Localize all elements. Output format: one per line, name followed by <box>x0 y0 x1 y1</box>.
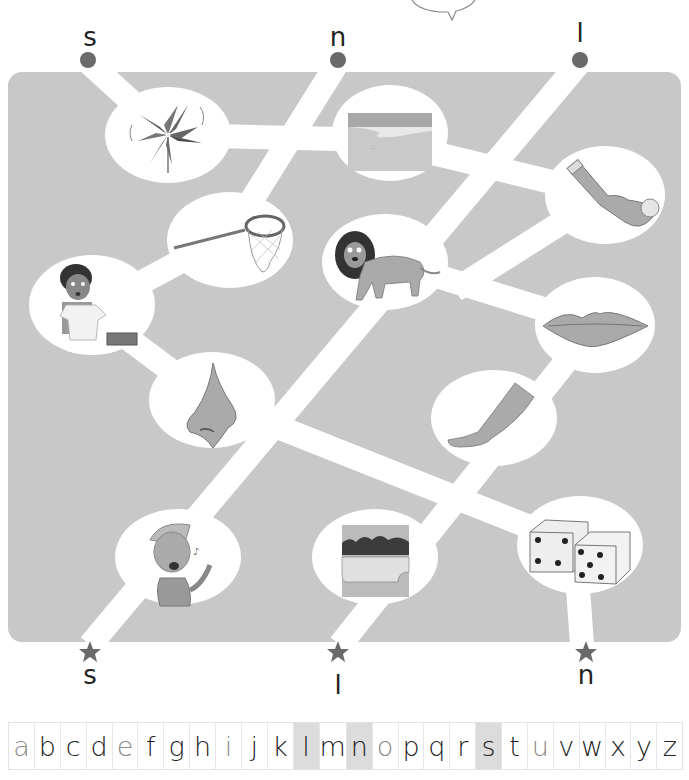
start-letter-n: n <box>330 24 346 50</box>
alphabet-letter-j: j <box>242 723 268 769</box>
alphabet-letter-y: y <box>631 723 657 769</box>
start-dot-l <box>572 52 588 68</box>
alphabet-letter-u: u <box>528 723 554 769</box>
end-letter-s: s <box>83 662 97 688</box>
alphabet-letter-a: a <box>9 723 35 769</box>
alphabet-letter-m: m <box>320 723 347 769</box>
svg-text:♪: ♪ <box>193 546 199 557</box>
start-letter-l: l <box>576 20 583 46</box>
speech-bubble-icon <box>412 0 475 20</box>
alphabet-letter-k: k <box>268 723 294 769</box>
sand-icon <box>348 113 432 171</box>
alphabet-letter-p: p <box>399 723 425 769</box>
alphabet-letter-r: r <box>450 723 476 769</box>
start-letter-s: s <box>83 24 97 50</box>
alphabet-letter-n: n <box>347 723 373 769</box>
alphabet-letter-g: g <box>164 723 190 769</box>
alphabet-letter-t: t <box>502 723 528 769</box>
alphabet-letter-w: w <box>580 723 606 769</box>
alphabet-letter-d: d <box>87 723 113 769</box>
start-dot-s <box>80 52 96 68</box>
alphabet-letter-b: b <box>35 723 61 769</box>
end-letter-n: n <box>578 662 594 688</box>
alphabet-letter-z: z <box>657 723 682 769</box>
alphabet-letter-o: o <box>373 723 399 769</box>
oval-net <box>167 192 293 288</box>
alphabet-letter-e: e <box>113 723 139 769</box>
alphabet-letter-x: x <box>606 723 632 769</box>
maze-board: ♪ <box>0 0 689 690</box>
alphabet-letter-q: q <box>424 723 450 769</box>
alphabet-letter-l: l <box>294 723 320 769</box>
start-dot-n <box>330 52 346 68</box>
end-letter-l: l <box>334 672 341 698</box>
alphabet-strip: abcdefghijklmnopqrstuvwxyz <box>8 722 683 770</box>
alphabet-letter-i: i <box>216 723 242 769</box>
alphabet-letter-s: s <box>476 723 502 769</box>
alphabet-letter-v: v <box>554 723 580 769</box>
alphabet-letter-h: h <box>190 723 216 769</box>
alphabet-letter-c: c <box>61 723 87 769</box>
alphabet-letter-f: f <box>138 723 164 769</box>
lake-icon <box>342 525 409 597</box>
